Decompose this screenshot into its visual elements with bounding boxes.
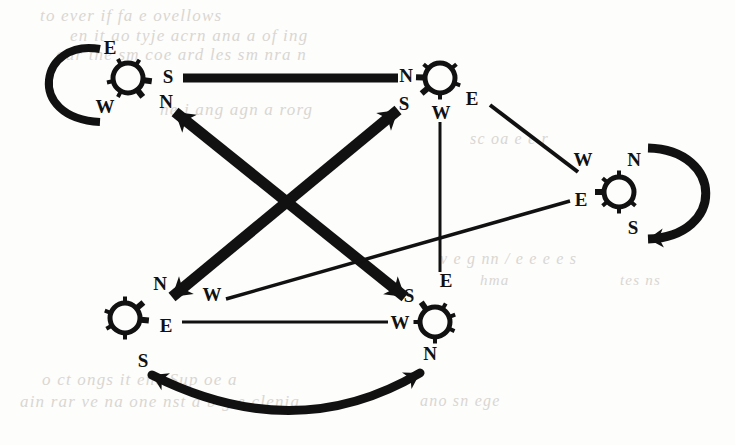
self-loop-node-top-left [49,48,100,122]
port-label-s: S [163,67,174,86]
node-circle[interactable] [420,307,450,337]
port-label-w: W [96,97,115,116]
edge-n4-s-to-n5-n [148,365,425,411]
node-top-left[interactable] [107,59,152,97]
port-label-n: N [423,344,437,363]
port-label-s: S [138,351,149,370]
node-circle[interactable] [110,303,140,333]
diagram-page: to ever if fa e ovellowsen it ao tyje ac… [0,0,735,445]
node-bottom-right[interactable] [414,302,456,343]
nodes-layer [105,59,636,343]
port-label-n: N [399,66,413,85]
node-top-right[interactable] [416,63,460,100]
graph-diagram [0,0,735,445]
node-circle[interactable] [604,177,634,207]
node-circle[interactable] [425,63,455,93]
port-label-n: N [153,274,167,293]
port-label-s: S [628,218,639,237]
port-label-s: S [399,94,410,113]
edge-n2-e-to-n3-w [490,105,578,172]
port-label-e: E [104,38,117,57]
node-right[interactable] [595,171,635,214]
port-label-e: E [466,89,479,108]
node-bottom-left[interactable] [105,297,149,340]
port-label-e: E [575,190,588,209]
self-loop-node-right [647,148,705,248]
port-label-w: W [391,313,410,332]
port-label-e: E [440,271,453,290]
port-label-w: W [203,285,222,304]
port-label-n: N [627,150,641,169]
port-label-w: W [574,150,593,169]
port-label-w: W [432,103,451,122]
port-label-s: S [404,286,415,305]
node-circle[interactable] [113,63,143,93]
port-label-n: N [159,92,173,111]
edges-layer [148,78,578,411]
port-label-e: E [160,316,173,335]
